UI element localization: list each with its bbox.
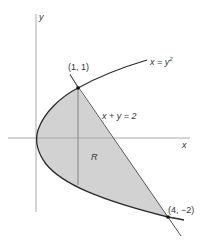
parabola-label: x = y2 <box>149 56 173 67</box>
x-axis-label: x <box>181 140 187 150</box>
leader-tick <box>70 74 78 88</box>
point-lower-label: (4, −2) <box>168 205 194 215</box>
y-axis-label: y <box>38 12 44 22</box>
point-lower <box>166 215 170 219</box>
region-diagram: y x (1, 1) (4, −2) x = y2 x + y = 2 R <box>0 0 204 249</box>
point-upper-label: (1, 1) <box>68 62 89 72</box>
line-label: x + y = 2 <box>101 111 137 121</box>
point-upper <box>76 86 80 90</box>
region-label: R <box>91 152 98 162</box>
